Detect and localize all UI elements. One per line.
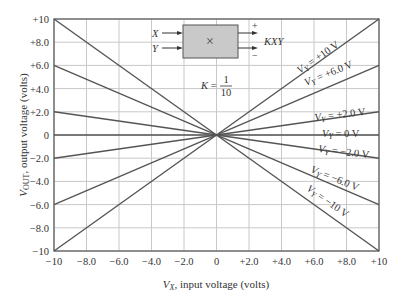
y-tick-label: +10 <box>33 14 49 25</box>
arrow-icon <box>252 31 258 35</box>
y-tick-label: +2.0 <box>30 107 49 118</box>
series-label: VY = 0 V <box>322 128 360 141</box>
series-label: VY = −2.0 V <box>318 143 371 162</box>
y-axis-label: VOUT, output voltage (volts) <box>17 73 31 197</box>
x-tick-label: +2.0 <box>239 256 258 267</box>
y-tick-labels: +10+8.0+6.0+4.0+2.00−2.0−4.0−6.0−8.0−10 <box>30 14 49 257</box>
y-tick-label: +4.0 <box>30 84 49 95</box>
output-label: KXY <box>263 36 284 47</box>
input-y-label: Y <box>152 43 159 54</box>
gain-denominator: 10 <box>221 87 232 98</box>
x-axis-label: VX, input voltage (volts) <box>163 278 270 292</box>
x-tick-label: −6.0 <box>109 256 128 267</box>
chart: +10+8.0+6.0+4.0+2.00−2.0−4.0−6.0−8.0−10 … <box>0 0 402 296</box>
y-tick-label: 0 <box>44 130 49 141</box>
y-tick-label: −6.0 <box>30 200 49 211</box>
x-tick-label: +10 <box>371 256 387 267</box>
y-tick-label: +6.0 <box>30 60 49 71</box>
x-tick-label: 0 <box>214 256 219 267</box>
input-x-label: X <box>151 28 159 39</box>
gain-numerator: 1 <box>223 74 228 85</box>
plus-sign: + <box>252 20 258 31</box>
series-labels: VY = +10 VVY = +6.0 VVY = +2.0 VVY = 0 V… <box>295 39 370 222</box>
y-tick-label: +8.0 <box>30 37 49 48</box>
y-tick-label: −4.0 <box>30 176 49 187</box>
minus-sign: − <box>252 50 258 61</box>
x-tick-label: −8.0 <box>77 256 96 267</box>
gain-prefix: K = <box>200 80 217 91</box>
x-tick-label: −10 <box>46 256 62 267</box>
arrow-icon <box>177 46 183 50</box>
multiply-icon: × <box>206 34 214 49</box>
series-label: VY = +2.0 V <box>314 106 367 125</box>
multiplier-block: × X Y + − KXY <box>151 20 284 61</box>
x-tick-label: −4.0 <box>142 256 161 267</box>
y-tick-label: −2.0 <box>30 153 49 164</box>
x-tick-label: +6.0 <box>304 256 323 267</box>
arrow-icon <box>177 31 183 35</box>
x-tick-labels: −10−8.0−6.0−4.0−2.00+2.0+4.0+6.0+8.0+10 <box>46 256 387 267</box>
x-tick-label: +8.0 <box>337 256 356 267</box>
y-tick-label: −8.0 <box>30 223 49 234</box>
x-tick-label: −2.0 <box>174 256 193 267</box>
x-tick-label: +4.0 <box>272 256 291 267</box>
